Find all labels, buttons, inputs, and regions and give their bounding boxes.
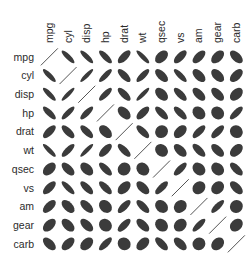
diagonal-line bbox=[209, 217, 226, 234]
ellipse-mpg-disp bbox=[79, 49, 95, 65]
ellipse-qsec-drat bbox=[115, 160, 133, 178]
ellipse-drat-vs bbox=[171, 123, 189, 141]
column-label-hp: hp bbox=[99, 31, 111, 43]
ellipse-qsec-gear bbox=[209, 160, 227, 178]
ellipse-wt-am bbox=[190, 142, 207, 159]
ellipse-vs-drat bbox=[115, 179, 133, 197]
ellipse-gear-wt bbox=[134, 216, 151, 233]
ellipse-qsec-carb bbox=[228, 161, 245, 178]
ellipse-carb-am bbox=[190, 235, 208, 253]
ellipse-disp-cyl bbox=[60, 87, 75, 102]
row-label-hp: hp bbox=[22, 107, 34, 119]
ellipse-hp-am bbox=[190, 104, 208, 122]
row-label-gear: gear bbox=[13, 219, 35, 231]
ellipse-drat-wt bbox=[134, 123, 151, 140]
ellipse-hp-drat bbox=[115, 104, 133, 122]
ellipse-hp-disp bbox=[79, 105, 95, 121]
diagonal-line bbox=[153, 161, 170, 178]
ellipse-qsec-mpg bbox=[40, 160, 58, 178]
ellipse-disp-carb bbox=[227, 85, 245, 103]
ellipse-vs-gear bbox=[209, 179, 227, 197]
ellipse-am-cyl bbox=[59, 198, 77, 216]
ellipse-hp-carb bbox=[228, 105, 245, 122]
ellipse-cyl-wt bbox=[135, 67, 151, 83]
ellipse-cyl-vs bbox=[172, 67, 188, 83]
ellipse-am-wt bbox=[134, 198, 151, 215]
ellipse-drat-mpg bbox=[41, 123, 58, 140]
ellipse-gear-mpg bbox=[41, 216, 59, 234]
ellipse-wt-hp bbox=[97, 142, 114, 159]
column-label-vs: vs bbox=[174, 33, 186, 44]
column-labels: mpgcyldisphpdratwtqsecvsamgearcarb bbox=[43, 21, 242, 44]
diagonal-line bbox=[60, 67, 77, 84]
ellipse-gear-carb bbox=[227, 216, 245, 234]
ellipse-gear-vs bbox=[171, 216, 189, 234]
ellipse-qsec-vs bbox=[172, 161, 189, 178]
row-label-cyl: cyl bbox=[21, 69, 34, 81]
ellipse-disp-gear bbox=[209, 86, 226, 103]
ellipse-qsec-am bbox=[190, 160, 208, 178]
ellipse-mpg-wt bbox=[135, 49, 151, 65]
ellipse-mpg-am bbox=[190, 48, 207, 65]
ellipse-carb-mpg bbox=[41, 235, 58, 252]
ellipse-carb-disp bbox=[78, 235, 96, 253]
row-label-mpg: mpg bbox=[14, 51, 35, 63]
column-label-carb: carb bbox=[230, 22, 242, 43]
ellipse-hp-qsec bbox=[153, 105, 170, 122]
ellipse-wt-mpg bbox=[41, 142, 57, 158]
ellipse-cyl-carb bbox=[228, 67, 246, 85]
ellipse-qsec-hp bbox=[97, 161, 114, 178]
ellipse-cyl-hp bbox=[97, 67, 113, 83]
correlation-ellipse-plot: mpgcyldisphpdratwtqsecvsamgearcarb mpgcy… bbox=[0, 0, 252, 267]
ellipse-gear-am bbox=[191, 217, 207, 233]
ellipse-qsec-cyl bbox=[59, 160, 76, 177]
ellipse-disp-hp bbox=[97, 86, 113, 102]
ellipse-mpg-hp bbox=[97, 49, 113, 65]
ellipse-mpg-carb bbox=[228, 48, 245, 65]
ellipse-vs-hp bbox=[97, 179, 114, 196]
column-label-wt: wt bbox=[136, 32, 148, 44]
ellipse-wt-disp bbox=[79, 143, 95, 159]
ellipse-drat-gear bbox=[209, 123, 226, 140]
ellipse-gear-drat bbox=[116, 217, 133, 234]
row-label-carb: carb bbox=[14, 238, 35, 250]
ellipse-vs-carb bbox=[228, 179, 245, 196]
diagonal-line bbox=[97, 104, 114, 121]
diagonal-line bbox=[190, 198, 207, 215]
diagonal-line bbox=[116, 123, 133, 140]
ellipse-cyl-gear bbox=[209, 67, 227, 85]
ellipse-disp-wt bbox=[135, 86, 151, 102]
ellipse-hp-vs bbox=[172, 105, 189, 122]
ellipse-mpg-vs bbox=[172, 48, 189, 65]
ellipse-wt-vs bbox=[172, 142, 189, 159]
ellipse-hp-wt bbox=[134, 104, 151, 121]
ellipse-cyl-am bbox=[190, 67, 208, 85]
ellipse-carb-hp bbox=[97, 236, 114, 253]
diagonal-line bbox=[78, 86, 95, 103]
ellipse-hp-mpg bbox=[41, 105, 57, 121]
ellipse-carb-qsec bbox=[153, 235, 170, 252]
ellipse-disp-am bbox=[190, 86, 207, 103]
ellipse-am-mpg bbox=[41, 198, 58, 215]
diagonal-line bbox=[41, 48, 58, 65]
column-label-am: am bbox=[192, 28, 204, 43]
column-label-cyl: cyl bbox=[62, 30, 74, 43]
row-label-qsec: qsec bbox=[12, 163, 34, 175]
ellipse-am-drat bbox=[116, 198, 133, 215]
ellipse-mpg-qsec bbox=[153, 48, 171, 66]
column-label-disp: disp bbox=[80, 24, 92, 43]
ellipse-wt-qsec bbox=[152, 141, 170, 159]
diagonal-line bbox=[134, 142, 151, 159]
ellipse-drat-qsec bbox=[152, 123, 170, 141]
ellipse-am-carb bbox=[227, 197, 245, 215]
ellipse-vs-disp bbox=[78, 179, 95, 196]
ellipse-vs-mpg bbox=[41, 179, 58, 196]
ellipse-vs-qsec bbox=[153, 179, 170, 196]
ellipse-carb-gear bbox=[209, 235, 227, 253]
ellipse-carb-cyl bbox=[59, 235, 77, 253]
ellipse-mpg-gear bbox=[209, 48, 227, 66]
ellipse-am-qsec bbox=[152, 197, 170, 215]
ellipse-drat-cyl bbox=[60, 123, 77, 140]
ellipse-carb-wt bbox=[134, 235, 152, 253]
ellipse-vs-am bbox=[190, 179, 208, 197]
